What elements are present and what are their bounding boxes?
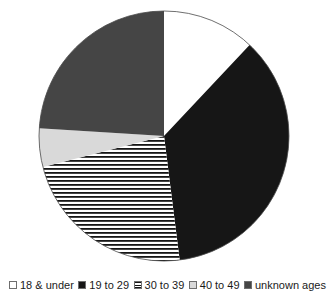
legend-swatch-30-to-39: [134, 281, 142, 289]
legend-item-30-to-39: 30 to 39: [134, 280, 185, 291]
pie-slice-unknown-ages: [39, 11, 164, 136]
legend-swatch-18-and-under: [9, 281, 17, 289]
chart-legend: 18 & under 19 to 29 30 to 39 40 to 49 un…: [0, 276, 335, 294]
legend-label-40-to-49: 40 to 49: [200, 280, 240, 291]
legend-item-19-to-29: 19 to 29: [78, 280, 129, 291]
legend-label-unknown-ages: unknown ages: [255, 280, 326, 291]
legend-label-30-to-39: 30 to 39: [145, 280, 185, 291]
pie-chart: [0, 0, 335, 272]
legend-swatch-40-to-49: [189, 281, 197, 289]
pie-chart-page: 18 & under 19 to 29 30 to 39 40 to 49 un…: [0, 0, 335, 306]
legend-label-19-to-29: 19 to 29: [89, 280, 129, 291]
legend-item-40-to-49: 40 to 49: [189, 280, 240, 291]
legend-label-18-and-under: 18 & under: [20, 280, 74, 291]
legend-item-18-and-under: 18 & under: [9, 280, 74, 291]
legend-swatch-19-to-29: [78, 281, 86, 289]
legend-item-unknown-ages: unknown ages: [244, 280, 326, 291]
legend-swatch-unknown-ages: [244, 281, 252, 289]
